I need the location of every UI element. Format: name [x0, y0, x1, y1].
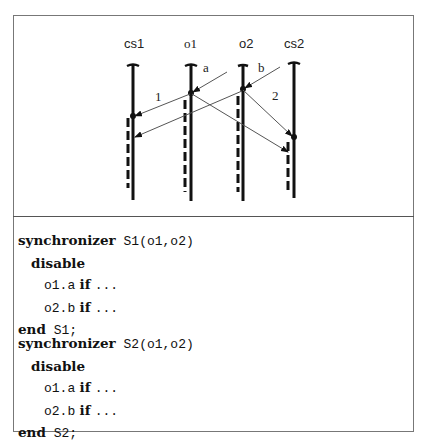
- rule-condition: ...: [95, 278, 118, 293]
- rule-target: o2.b: [44, 404, 75, 419]
- rule-target: o1.a: [44, 381, 75, 396]
- message-a: [193, 72, 227, 92]
- synchronizer-signature: S2(o1,o2): [116, 337, 194, 352]
- process-label-o1: o1: [184, 36, 197, 51]
- rule-target: o1.a: [44, 278, 75, 293]
- divider: [13, 216, 414, 217]
- rule-condition: ...: [95, 404, 118, 419]
- sequence-diagram: cs1 o1 o2 cs2 a b 1 2: [0, 0, 425, 216]
- keyword-synchronizer: synchronizer: [18, 232, 116, 248]
- process-label-o2: o2: [239, 36, 253, 51]
- rule-condition: ...: [95, 381, 118, 396]
- lifeline-top-o2: [238, 65, 248, 66]
- synchronizer-block-s1: synchronizer S1(o1,o2) disable o1.a if .…: [18, 230, 194, 342]
- message-label-b: b: [258, 60, 265, 75]
- process-label-cs2: cs2: [284, 36, 304, 51]
- message-label-a: a: [203, 60, 209, 75]
- message-label-2: 2: [272, 88, 279, 103]
- keyword-if: if: [80, 402, 91, 418]
- keyword-disable: disable: [31, 255, 85, 271]
- rule-condition: ...: [95, 301, 118, 316]
- message-1: [135, 94, 190, 116]
- synchronizer-block-s2: synchronizer S2(o1,o2) disable o1.a if .…: [18, 333, 194, 444]
- end-name: S2;: [46, 426, 77, 441]
- keyword-synchronizer: synchronizer: [18, 335, 116, 351]
- keyword-end: end: [18, 424, 46, 440]
- synchronizer-signature: S1(o1,o2): [116, 234, 194, 249]
- keyword-if: if: [80, 379, 91, 395]
- message-label-1: 1: [155, 89, 162, 104]
- rule-target: o2.b: [44, 301, 75, 316]
- keyword-if: if: [80, 299, 91, 315]
- event-dot-cs2: [291, 134, 297, 140]
- keyword-disable: disable: [31, 358, 85, 374]
- process-label-cs1: cs1: [124, 36, 144, 51]
- keyword-if: if: [80, 276, 91, 292]
